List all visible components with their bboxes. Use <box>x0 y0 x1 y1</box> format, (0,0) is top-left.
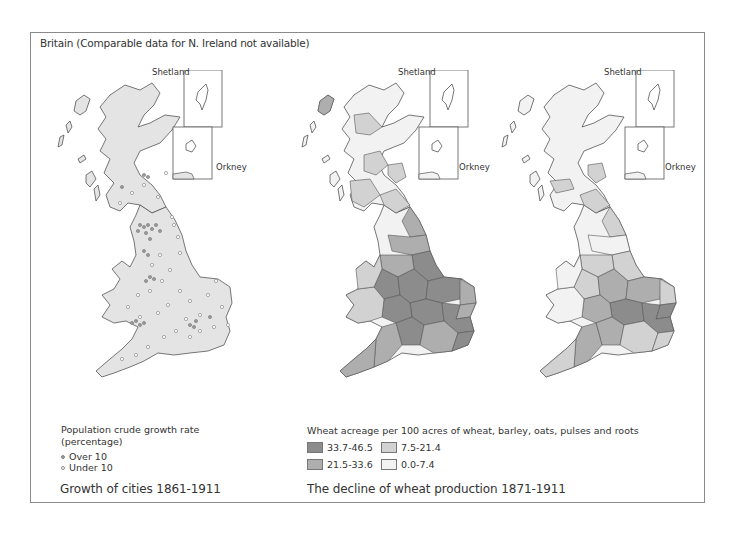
swatch-midhigh <box>307 459 323 470</box>
inset-label-shetland: Shetland <box>604 67 642 77</box>
legend-item-7-5-21-4: 7.5-21.4 <box>381 442 441 453</box>
caption-wheat-decline: The decline of wheat production 1871-191… <box>307 482 566 496</box>
legend-wheat-title: Wheat acreage per 100 acres of wheat, ba… <box>307 425 639 437</box>
legend-item-under-10: Under 10 <box>61 462 113 473</box>
inset-label-shetland: Shetland <box>398 67 436 77</box>
swatch-midlow <box>381 442 397 453</box>
legend-item-33-7-46-5: 33.7-46.5 <box>307 442 373 453</box>
inset-label-orkney: Orkney <box>216 162 247 172</box>
swatch-high <box>307 442 323 453</box>
hollow-dot-icon <box>61 466 65 470</box>
legend-cities-title: Population crude growth rate (percentage… <box>61 424 199 448</box>
swatch-low <box>381 459 397 470</box>
legend-item-21-5-33-6: 21.5-33.6 <box>307 459 373 470</box>
legend-item-0-0-7-4: 0.0-7.4 <box>381 459 435 470</box>
caption-growth-of-cities: Growth of cities 1861-1911 <box>60 482 221 496</box>
figure-title: Britain (Comparable data for N. Ireland … <box>40 37 309 49</box>
inset-label-shetland: Shetland <box>152 67 190 77</box>
inset-label-orkney: Orkney <box>665 162 696 172</box>
inset-orkney-box <box>173 127 212 179</box>
filled-dot-icon <box>61 455 65 459</box>
legend-item-over-10: Over 10 <box>61 451 107 462</box>
